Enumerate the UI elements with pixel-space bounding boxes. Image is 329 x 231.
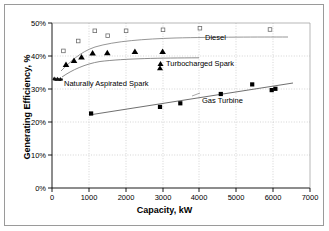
- y-tick-marks: [48, 23, 52, 188]
- naturally-aspirated-spark-series-markers: [52, 76, 63, 81]
- x-tick-label-7000: 7000: [293, 193, 327, 202]
- x-tick-label-3000: 3000: [146, 193, 180, 202]
- x-tick-label-5000: 5000: [219, 193, 253, 202]
- turbocharged-spark-series-markers: [63, 48, 166, 70]
- x-tick-label-2000: 2000: [109, 193, 143, 202]
- series-annotation-turbocharged-spark: Turbocharged Spark: [166, 59, 234, 68]
- series-annotation-diesel: Diesel: [205, 33, 226, 42]
- x-tick-marks: [52, 188, 310, 192]
- y-gridlines: [52, 56, 310, 155]
- diesel-series-markers: [62, 26, 272, 52]
- series-annotation-naturally-aspirated-spark: Naturally Aspirated Spark: [64, 79, 149, 88]
- series-annotation-gas-turbine: Gas Turbine: [202, 96, 243, 105]
- x-tick-label-0: 0: [35, 193, 69, 202]
- x-tick-label-4000: 4000: [182, 193, 216, 202]
- plot-axes: [52, 23, 310, 188]
- x-gridlines: [89, 23, 273, 188]
- gas-turbine-leader-line: [192, 93, 200, 96]
- x-tick-label-6000: 6000: [256, 193, 290, 202]
- x-axis-title: Capacity, kW: [0, 205, 329, 215]
- turbocharged-spark-label-marker: [158, 61, 164, 66]
- chart-figure: 50% 40% 30% 20% 10% 0% 0 1000 2000 3000 …: [0, 0, 329, 231]
- y-axis-title: Generating Efficiency, %: [22, 27, 32, 187]
- x-tick-label-1000: 1000: [72, 193, 106, 202]
